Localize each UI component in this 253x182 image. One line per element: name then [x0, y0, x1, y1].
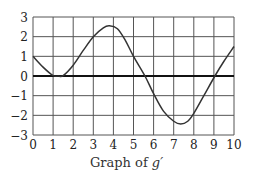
chart-caption: Graph of g′ [0, 155, 253, 170]
x-tick-label: 6 [150, 138, 158, 152]
y-axis-tick-labels: 3210−1−2−3 [10, 11, 28, 143]
x-tick-label: 5 [130, 138, 138, 152]
x-tick-label: 9 [210, 138, 218, 152]
caption-function: g′ [152, 155, 163, 170]
y-tick-label: −3 [10, 129, 28, 143]
x-tick-label: 7 [170, 138, 178, 152]
x-tick-label: 8 [190, 138, 198, 152]
x-tick-label: 3 [89, 138, 97, 152]
y-tick-label: 1 [20, 50, 28, 64]
y-tick-label: 0 [20, 70, 28, 84]
x-tick-label: 4 [110, 138, 118, 152]
x-tick-label: 2 [69, 138, 77, 152]
x-tick-label: 1 [49, 138, 57, 152]
x-tick-label: 10 [226, 138, 241, 152]
chart: 3210−1−2−3 012345678910 Graph of g′ [0, 0, 253, 182]
y-tick-label: −1 [10, 89, 28, 103]
y-tick-label: 2 [20, 30, 28, 44]
x-axis-tick-labels: 012345678910 [29, 138, 241, 152]
y-tick-label: −2 [10, 109, 28, 123]
y-tick-label: 3 [20, 11, 28, 25]
caption-prefix: Graph of [90, 155, 152, 170]
x-tick-label: 0 [29, 138, 37, 152]
